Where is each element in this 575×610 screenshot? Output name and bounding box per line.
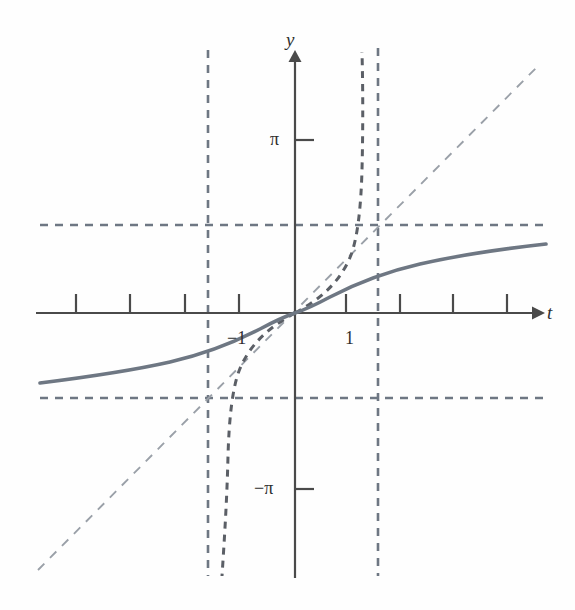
t-tick-label-one: 1 <box>345 329 354 347</box>
t-axis-label: t <box>547 303 552 322</box>
tangent-branch-upper <box>295 52 363 313</box>
arctan-tangent-figure: y t π −π −1 1 <box>0 0 575 610</box>
y-axis-label: y <box>286 30 294 49</box>
y-axis-arrowhead <box>289 50 302 62</box>
plot-canvas <box>0 0 575 610</box>
t-tick-label-minus-one: −1 <box>227 329 246 347</box>
t-axis-ticks <box>76 294 507 313</box>
tangent-branch-lower <box>222 313 295 576</box>
t-axis-arrowhead <box>532 307 545 320</box>
y-tick-label-minus-pi: −π <box>254 479 273 497</box>
y-tick-label-pi: π <box>270 130 279 148</box>
y-axis-ticks <box>295 140 314 489</box>
